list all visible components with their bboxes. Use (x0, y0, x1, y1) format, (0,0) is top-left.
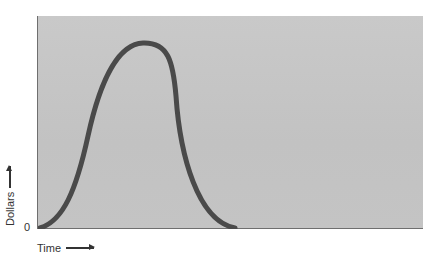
y-axis-label: Dollars (4, 166, 16, 226)
up-arrow-icon (9, 166, 11, 188)
x-axis-label-text: Time (37, 242, 61, 254)
x-axis-label: Time (37, 242, 94, 254)
y-axis-label-text: Dollars (4, 192, 16, 226)
right-arrow-icon (66, 247, 94, 249)
dollars-curve (38, 16, 424, 229)
y-zero-tick-label: 0 (24, 221, 30, 233)
plot-area (37, 16, 423, 229)
